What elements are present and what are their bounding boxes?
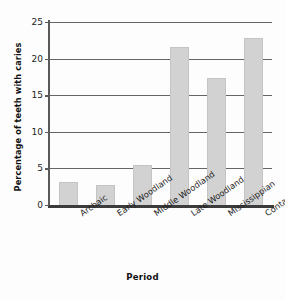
- x-tick-label-middle-woodland: Middle Woodland: [152, 210, 158, 218]
- bar-chart-figure: Percentage of teeth with caries 05101520…: [0, 0, 285, 300]
- y-tick-label: 0: [37, 200, 43, 210]
- y-axis-title: Percentage of teeth with caries: [13, 27, 23, 207]
- bar-contact: [244, 38, 263, 205]
- x-tick-label-mississippian: Mississippian: [226, 210, 232, 218]
- gridline: [50, 132, 272, 133]
- gridline: [50, 22, 272, 23]
- y-tick-mark: [45, 205, 49, 206]
- gridline: [50, 168, 272, 169]
- y-tick-mark: [45, 22, 49, 23]
- y-tick-mark: [45, 168, 49, 169]
- x-tick-label-early-woodland: Early Woodland: [115, 210, 121, 218]
- y-tick-label: 15: [32, 90, 43, 100]
- y-tick-label: 10: [32, 127, 43, 137]
- x-tick-label-archaic: Archaic: [78, 210, 84, 218]
- bar-archaic: [59, 182, 78, 205]
- y-tick-label: 5: [37, 163, 43, 173]
- gridline: [50, 95, 272, 96]
- y-tick-mark: [45, 132, 49, 133]
- gridline: [50, 59, 272, 60]
- y-tick-mark: [45, 95, 49, 96]
- y-tick-mark: [45, 59, 49, 60]
- y-tick-label: 20: [32, 54, 43, 64]
- x-axis-title: Period: [0, 272, 285, 282]
- y-tick-label: 25: [32, 17, 43, 27]
- x-tick-label-late-woodland: Late Woodland: [189, 210, 195, 218]
- x-tick-label-contact: Contact: [263, 210, 269, 218]
